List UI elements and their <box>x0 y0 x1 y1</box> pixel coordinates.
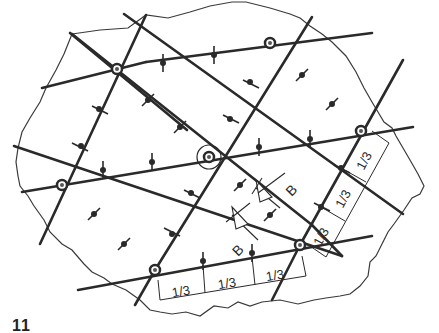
dimension-right-label-2: 1/3 <box>332 187 354 210</box>
dimension-bottom-label-2: 1/3 <box>217 274 237 292</box>
tick <box>234 179 246 191</box>
tick <box>161 54 165 72</box>
tick <box>88 208 100 220</box>
section-marker-upper-label: B <box>282 181 300 199</box>
node-n3 <box>57 180 67 190</box>
node-n2 <box>265 38 275 48</box>
tick <box>296 69 308 81</box>
section-marker-lower-label: B <box>229 241 247 259</box>
tick <box>264 209 276 221</box>
tick <box>212 46 216 64</box>
dimension-right-label-3: 1/3 <box>353 149 375 172</box>
tick <box>150 153 154 171</box>
tick <box>326 98 338 110</box>
node-n5 <box>356 126 366 136</box>
node-n6 <box>150 265 160 275</box>
tick <box>314 203 330 211</box>
tick <box>223 115 239 123</box>
node-n7 <box>295 240 305 250</box>
tick <box>243 80 259 88</box>
dimension-bottom-label-1: 1/3 <box>171 282 191 300</box>
figure-number: 11 <box>12 318 31 333</box>
node-n4-circled <box>197 145 221 169</box>
section-marker-lower <box>226 203 258 240</box>
space-grid-plan-diagram: 1/3 1/3 1/3 1/3 1/3 1/3 B B <box>0 0 439 333</box>
dimension-bottom-label-3: 1/3 <box>265 266 285 284</box>
tick <box>184 190 200 198</box>
tick <box>118 238 130 250</box>
node-n1 <box>112 64 122 74</box>
